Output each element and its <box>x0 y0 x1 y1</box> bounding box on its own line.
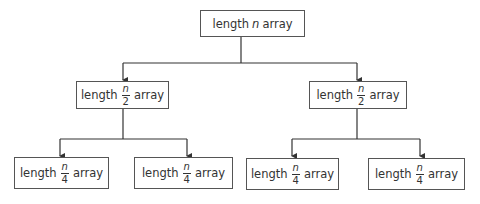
node-prefix: length <box>20 166 57 180</box>
node-prefix: length <box>81 88 118 102</box>
node-variable: n <box>252 17 259 31</box>
node-suffix: array <box>369 88 399 102</box>
leaf-node-3: length n 4 array <box>246 158 339 190</box>
fraction-denominator: 2 <box>123 96 129 107</box>
fraction-numerator: n <box>183 162 191 174</box>
fraction: n 2 <box>122 84 130 107</box>
fraction: n 4 <box>61 162 69 185</box>
level1-node-right: length n 2 array <box>309 81 407 109</box>
node-suffix: array <box>195 166 225 180</box>
leaf-node-2: length n 4 array <box>134 157 233 189</box>
fraction: n 4 <box>183 162 191 185</box>
node-prefix: length <box>212 17 249 31</box>
fraction-denominator: 4 <box>184 174 190 185</box>
fraction-denominator: 4 <box>293 175 299 186</box>
fraction: n 4 <box>292 163 300 186</box>
node-prefix: length <box>375 167 412 181</box>
node-suffix: array <box>134 88 164 102</box>
level1-node-left: length n 2 array <box>76 81 169 109</box>
root-node: length n array <box>200 10 305 37</box>
node-prefix: length <box>316 88 353 102</box>
fraction: n 4 <box>416 163 424 186</box>
fraction-numerator: n <box>416 163 424 175</box>
node-suffix: array <box>73 166 103 180</box>
fraction-numerator: n <box>122 84 130 96</box>
fraction: n 2 <box>357 84 365 107</box>
node-prefix: length <box>142 166 179 180</box>
node-suffix: array <box>304 167 334 181</box>
leaf-node-1: length n 4 array <box>14 157 109 189</box>
fraction-numerator: n <box>357 84 365 96</box>
node-prefix: length <box>251 167 288 181</box>
node-suffix: array <box>262 17 292 31</box>
fraction-numerator: n <box>292 163 300 175</box>
fraction-numerator: n <box>61 162 69 174</box>
fraction-denominator: 2 <box>358 96 364 107</box>
node-suffix: array <box>428 167 458 181</box>
fraction-denominator: 4 <box>417 175 423 186</box>
leaf-node-4: length n 4 array <box>368 158 465 190</box>
fraction-denominator: 4 <box>62 174 68 185</box>
